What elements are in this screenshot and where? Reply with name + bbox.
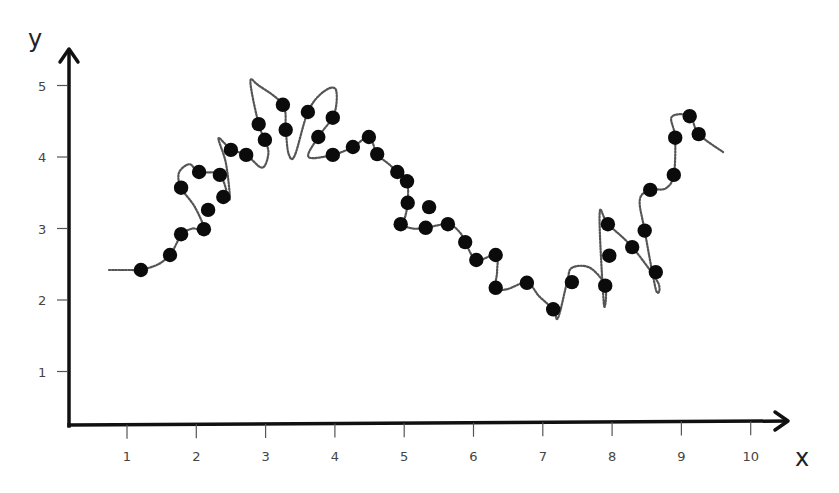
- y-tick-label: 3: [38, 222, 46, 237]
- data-point: [649, 265, 663, 279]
- data-point: [638, 223, 652, 237]
- x-tick-label: 6: [469, 449, 477, 464]
- data-point: [216, 190, 230, 204]
- y-axis-ticks: 12345: [38, 79, 67, 380]
- data-point: [489, 248, 503, 262]
- x-axis-ticks: 12345678910: [123, 421, 759, 464]
- data-point: [401, 196, 415, 210]
- y-tick-label: 2: [38, 293, 46, 308]
- y-tick-label: 1: [38, 365, 46, 380]
- y-tick-label: 4: [38, 150, 46, 165]
- data-point: [601, 217, 615, 231]
- data-point: [400, 174, 414, 188]
- x-tick-label: 5: [400, 449, 408, 464]
- y-tick-label: 5: [38, 79, 46, 94]
- data-point: [668, 131, 682, 145]
- data-point: [326, 111, 340, 125]
- x-tick-label: 1: [123, 449, 131, 464]
- overfit-curve: [109, 79, 723, 319]
- data-point: [546, 302, 560, 316]
- fit-curve-path: [109, 79, 723, 319]
- data-point: [469, 253, 483, 267]
- data-point: [252, 117, 266, 131]
- data-point: [163, 248, 177, 262]
- data-point: [239, 148, 253, 162]
- data-point: [520, 276, 534, 290]
- data-point: [326, 148, 340, 162]
- x-axis-label: x: [795, 444, 809, 472]
- y-axis-label: y: [28, 25, 42, 53]
- data-point: [598, 279, 612, 293]
- data-point: [370, 147, 384, 161]
- data-point: [667, 168, 681, 182]
- data-point: [394, 217, 408, 231]
- data-point: [224, 143, 238, 157]
- data-point: [174, 227, 188, 241]
- data-point: [192, 165, 206, 179]
- x-tick-label: 3: [261, 449, 269, 464]
- data-point: [683, 109, 697, 123]
- data-point: [458, 235, 472, 249]
- y-axis: [60, 49, 78, 426]
- data-point: [201, 203, 215, 217]
- data-point: [419, 221, 433, 235]
- data-point: [134, 263, 148, 277]
- data-point: [311, 130, 325, 144]
- data-point: [625, 240, 639, 254]
- data-point: [362, 130, 376, 144]
- data-points: [134, 98, 706, 317]
- data-point: [276, 98, 290, 112]
- x-tick-label: 2: [192, 449, 200, 464]
- data-point: [602, 249, 616, 263]
- data-point: [279, 123, 293, 137]
- x-axis: [69, 412, 788, 430]
- x-tick-label: 8: [608, 449, 616, 464]
- x-tick-label: 4: [331, 449, 339, 464]
- x-tick-label: 7: [539, 449, 547, 464]
- data-point: [213, 168, 227, 182]
- data-point: [692, 127, 706, 141]
- data-point: [346, 140, 360, 154]
- data-point: [174, 181, 188, 195]
- data-point: [258, 133, 272, 147]
- data-point: [301, 105, 315, 119]
- data-point: [197, 222, 211, 236]
- data-point: [643, 183, 657, 197]
- data-point: [565, 275, 579, 289]
- x-tick-label: 9: [677, 449, 685, 464]
- data-point: [422, 200, 436, 214]
- data-point: [489, 281, 503, 295]
- scatter-chart: 12345 12345678910 y x: [0, 0, 839, 493]
- x-tick-label: 10: [742, 449, 759, 464]
- data-point: [441, 217, 455, 231]
